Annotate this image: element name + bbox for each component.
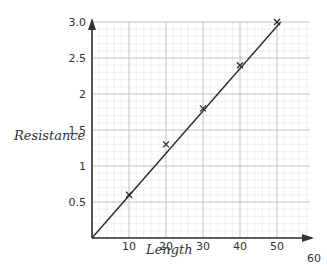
y-tick-labels: 0.511.522.53.0 xyxy=(69,16,87,209)
svg-text:0.5: 0.5 xyxy=(69,196,87,209)
resistance-length-chart: 102030405060 0.511.522.53.0 Resistance L… xyxy=(0,0,327,270)
y-axis-title: Resistance xyxy=(13,128,86,143)
svg-text:40: 40 xyxy=(233,240,247,253)
svg-text:1: 1 xyxy=(79,160,86,173)
svg-text:2: 2 xyxy=(79,88,86,101)
svg-text:10: 10 xyxy=(122,240,136,253)
svg-text:50: 50 xyxy=(270,240,284,253)
major-grid xyxy=(92,22,310,238)
svg-text:2.5: 2.5 xyxy=(69,52,87,65)
x-axis-title: Length xyxy=(145,242,193,257)
svg-text:3.0: 3.0 xyxy=(69,16,87,29)
svg-text:60: 60 xyxy=(307,252,321,265)
svg-text:30: 30 xyxy=(196,240,210,253)
